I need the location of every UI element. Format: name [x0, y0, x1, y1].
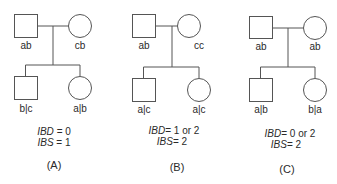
mother-circle-a [69, 15, 92, 38]
daughter-genotype-a: a|b [60, 104, 100, 114]
son-square-a [15, 77, 38, 100]
mother-genotype-b: cc [179, 41, 219, 51]
ibs-a: IBS = 1 [4, 137, 104, 148]
father-square-b [133, 15, 156, 38]
daughter-genotype-b: a|c [179, 105, 219, 115]
son-genotype-c: a|b [241, 105, 281, 115]
father-genotype-c: ab [241, 42, 281, 52]
daughter-circle-b [188, 79, 211, 102]
caption-b: (B) [157, 162, 197, 173]
ibd-c: IBD= 0 or 2 [240, 128, 337, 139]
ibs-b: IBS= 2 [122, 136, 222, 147]
pedigree-drawing [0, 0, 337, 184]
father-square-a [15, 15, 38, 38]
father-genotype-a: ab [6, 41, 46, 51]
son-square-b [133, 79, 156, 102]
son-genotype-a: b|c [6, 104, 46, 114]
daughter-circle-a [69, 77, 92, 100]
mother-circle-c [304, 17, 327, 40]
daughter-genotype-c: b|a [295, 105, 335, 115]
father-square-c [250, 17, 273, 39]
ibs-c: IBS= 2 [236, 139, 336, 150]
daughter-circle-c [304, 79, 327, 102]
caption-a: (A) [34, 160, 74, 171]
son-genotype-b: a|c [124, 105, 164, 115]
ibd-a: IBD = 0 [4, 126, 104, 137]
father-genotype-b: ab [124, 41, 164, 51]
ibd-b: IBD= 1 or 2 [124, 125, 224, 136]
mother-genotype-c: ab [295, 42, 335, 52]
mother-circle-b [178, 15, 201, 38]
son-square-c [250, 79, 273, 102]
mother-genotype-a: cb [60, 41, 100, 51]
caption-c: (C) [267, 164, 307, 175]
